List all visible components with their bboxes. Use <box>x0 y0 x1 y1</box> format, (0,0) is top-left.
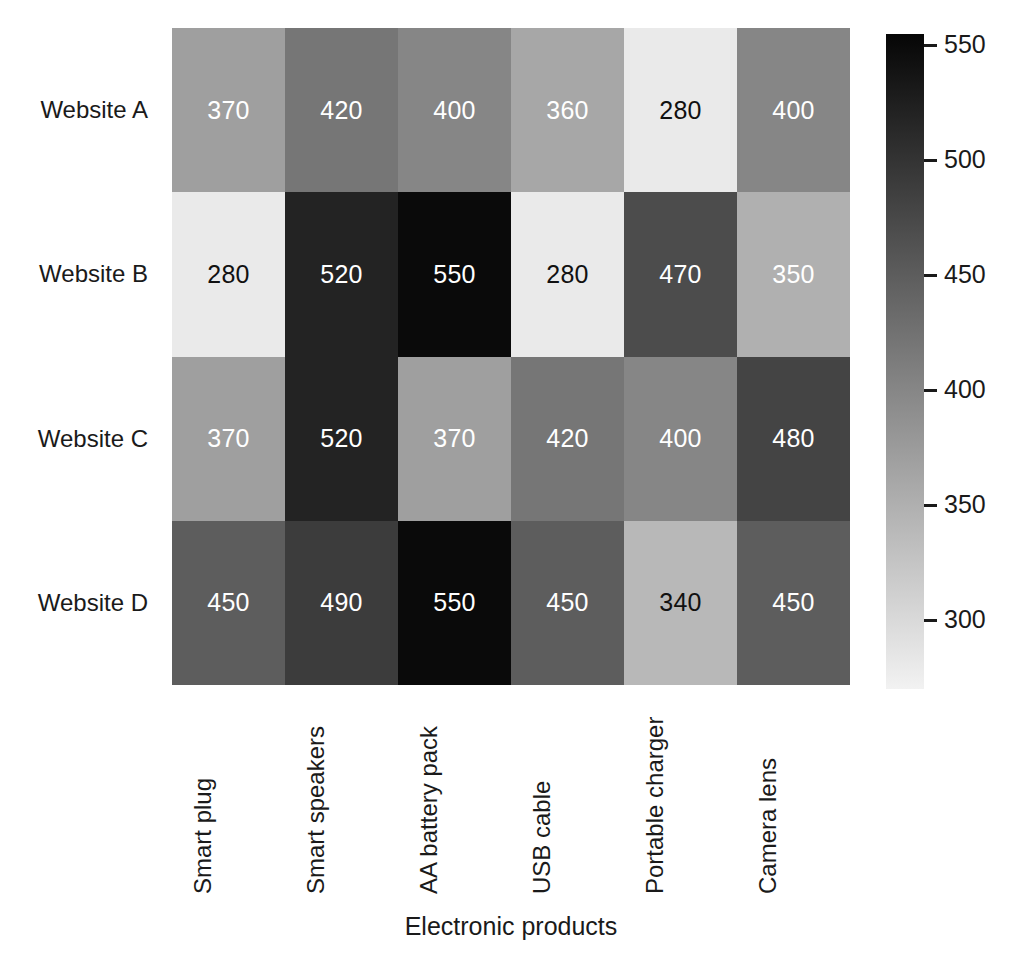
heatmap-cell: 400 <box>624 357 737 521</box>
heatmap-cell-value: 400 <box>433 98 475 123</box>
heatmap-cell: 420 <box>511 357 624 521</box>
y-axis-ticklabel: Website D <box>0 521 160 685</box>
y-axis-ticklabel: Website A <box>0 28 160 192</box>
heatmap-cell-value: 400 <box>772 98 814 123</box>
heatmap-cell-value: 280 <box>659 98 701 123</box>
heatmap-cell: 450 <box>737 521 850 685</box>
heatmap-cell: 400 <box>737 28 850 192</box>
x-axis-ticklabels: Smart plugSmart speakersAA battery packU… <box>172 685 850 900</box>
heatmap-cell: 370 <box>172 357 285 521</box>
heatmap-cell-value: 450 <box>546 590 588 615</box>
heatmap-cell: 450 <box>511 521 624 685</box>
x-axis-tick: Camera lens <box>737 685 850 900</box>
x-axis-tick: AA battery pack <box>398 685 511 900</box>
heatmap-cell-value: 550 <box>433 590 475 615</box>
colorbar-tickmark <box>924 389 937 392</box>
colorbar-tickmark <box>924 619 937 622</box>
heatmap-cell: 280 <box>172 192 285 356</box>
colorbar-gradient <box>886 34 924 689</box>
heatmap-cell: 450 <box>172 521 285 685</box>
heatmap-cell-value: 420 <box>320 98 362 123</box>
heatmap-cell-value: 450 <box>772 590 814 615</box>
heatmap-cell: 420 <box>285 28 398 192</box>
heatmap-cell: 550 <box>398 192 511 356</box>
y-axis-ticklabel: Website B <box>0 192 160 356</box>
heatmap-cell-value: 450 <box>207 590 249 615</box>
heatmap-cell: 360 <box>511 28 624 192</box>
colorbar-ticklabel: 550 <box>944 32 986 57</box>
y-axis-ticklabels: Website AWebsite BWebsite CWebsite D <box>0 28 160 685</box>
heatmap-cell-value: 350 <box>772 262 814 287</box>
heatmap-cell: 520 <box>285 192 398 356</box>
heatmap-cell: 350 <box>737 192 850 356</box>
x-axis-tick: Smart plug <box>172 685 285 900</box>
heatmap-cell-value: 470 <box>659 262 701 287</box>
heatmap-cell: 280 <box>511 192 624 356</box>
heatmap-cell: 520 <box>285 357 398 521</box>
heatmap-cell: 370 <box>172 28 285 192</box>
x-axis-tick: USB cable <box>511 685 624 900</box>
colorbar-tickmark <box>924 159 937 162</box>
heatmap-cell-value: 490 <box>320 590 362 615</box>
heatmap-cell: 340 <box>624 521 737 685</box>
heatmap-cell-value: 370 <box>433 426 475 451</box>
heatmap-cell-value: 480 <box>772 426 814 451</box>
heatmap-cell: 550 <box>398 521 511 685</box>
heatmap-cell-value: 280 <box>207 262 249 287</box>
heatmap-cell-value: 360 <box>546 98 588 123</box>
x-axis-tick: Smart speakers <box>285 685 398 900</box>
heatmap-cell-value: 370 <box>207 98 249 123</box>
heatmap-cell-value: 550 <box>433 262 475 287</box>
colorbar-ticklabel: 400 <box>944 377 986 402</box>
heatmap-cell: 370 <box>398 357 511 521</box>
x-axis-ticklabel: USB cable <box>528 781 556 894</box>
x-axis-ticklabel: Smart plug <box>189 778 217 894</box>
colorbar-ticklabel: 500 <box>944 147 986 172</box>
heatmap-figure: Website AWebsite BWebsite CWebsite D 370… <box>0 0 1012 963</box>
heatmap-cell-value: 370 <box>207 426 249 451</box>
colorbar: 550500450400350300 <box>886 34 1012 689</box>
x-axis-title: Electronic products <box>172 912 850 941</box>
x-axis-ticklabel: Smart speakers <box>302 726 330 894</box>
x-axis-ticklabel: AA battery pack <box>415 726 443 894</box>
heatmap-cell: 470 <box>624 192 737 356</box>
colorbar-tickmark <box>924 274 937 277</box>
colorbar-ticklabel: 300 <box>944 607 986 632</box>
heatmap-cell-value: 340 <box>659 590 701 615</box>
heatmap-cell: 490 <box>285 521 398 685</box>
heatmap-cell-value: 520 <box>320 262 362 287</box>
heatmap-cell: 280 <box>624 28 737 192</box>
colorbar-tickmark <box>924 44 937 47</box>
x-axis-ticklabel: Camera lens <box>754 758 782 894</box>
heatmap-cell-value: 520 <box>320 426 362 451</box>
x-axis-tick: Portable charger <box>624 685 737 900</box>
heatmap-cell-value: 420 <box>546 426 588 451</box>
colorbar-ticklabel: 350 <box>944 492 986 517</box>
heatmap-cell: 400 <box>398 28 511 192</box>
heatmap-cell: 480 <box>737 357 850 521</box>
heatmap-grid: 3704204003602804002805205502804703503705… <box>172 28 850 685</box>
colorbar-ticklabel: 450 <box>944 262 986 287</box>
colorbar-tickmark <box>924 504 937 507</box>
x-axis-ticklabel: Portable charger <box>641 717 669 894</box>
heatmap-cell-value: 280 <box>546 262 588 287</box>
y-axis-ticklabel: Website C <box>0 357 160 521</box>
heatmap-cell-value: 400 <box>659 426 701 451</box>
